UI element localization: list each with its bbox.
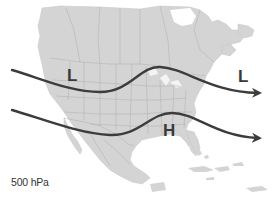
weather-map: L L H 500 hPa: [0, 0, 276, 200]
low-pressure-label-east: L: [238, 68, 248, 85]
high-pressure-label-south: H: [163, 122, 175, 139]
low-pressure-label-west: L: [67, 67, 77, 84]
north-america-map: [0, 0, 276, 200]
map-caption: 500 hPa: [11, 177, 49, 188]
